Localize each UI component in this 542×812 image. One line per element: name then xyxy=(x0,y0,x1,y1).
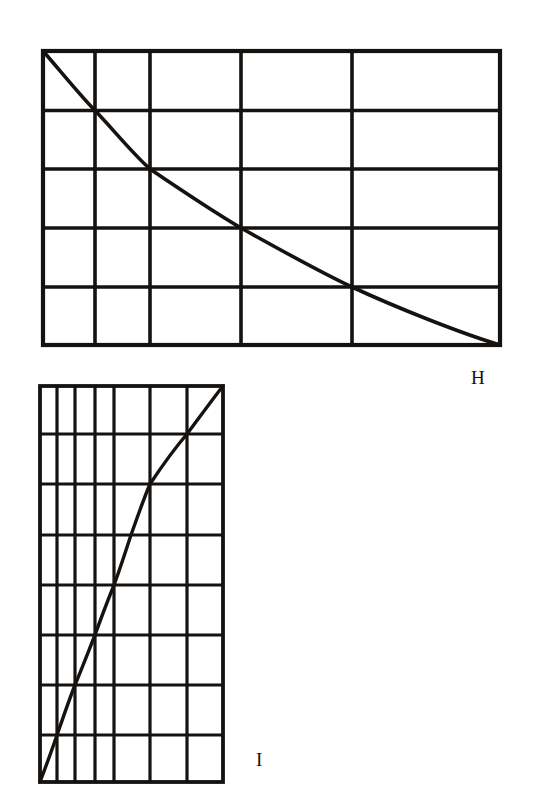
chart-i-horizontal-gridlines xyxy=(40,434,223,735)
chart-h-horizontal-gridlines xyxy=(43,111,500,288)
chart-i-panel xyxy=(40,386,223,782)
panel-label-i: I xyxy=(256,750,263,769)
figure-page: H I xyxy=(0,0,542,812)
chart-h-frame xyxy=(43,51,500,345)
figure-canvas xyxy=(0,0,542,812)
chart-h-panel xyxy=(43,51,500,345)
panel-label-h: H xyxy=(471,368,485,387)
chart-h-vertical-gridlines xyxy=(95,51,352,345)
chart-h-curve xyxy=(43,51,500,345)
